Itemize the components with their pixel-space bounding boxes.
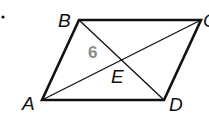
vertex-label-B: B bbox=[58, 10, 71, 31]
intersection-label-E: E bbox=[111, 66, 124, 87]
vertex-label-A: A bbox=[21, 93, 35, 114]
bullet-marker bbox=[1, 15, 4, 18]
segment-length-BE: 6 bbox=[88, 43, 97, 62]
parallelogram-diagram: B C A D E 6 bbox=[0, 0, 209, 132]
diagram-svg: B C A D E 6 bbox=[0, 0, 209, 132]
vertex-label-C: C bbox=[203, 10, 209, 31]
vertex-label-D: D bbox=[169, 94, 183, 115]
